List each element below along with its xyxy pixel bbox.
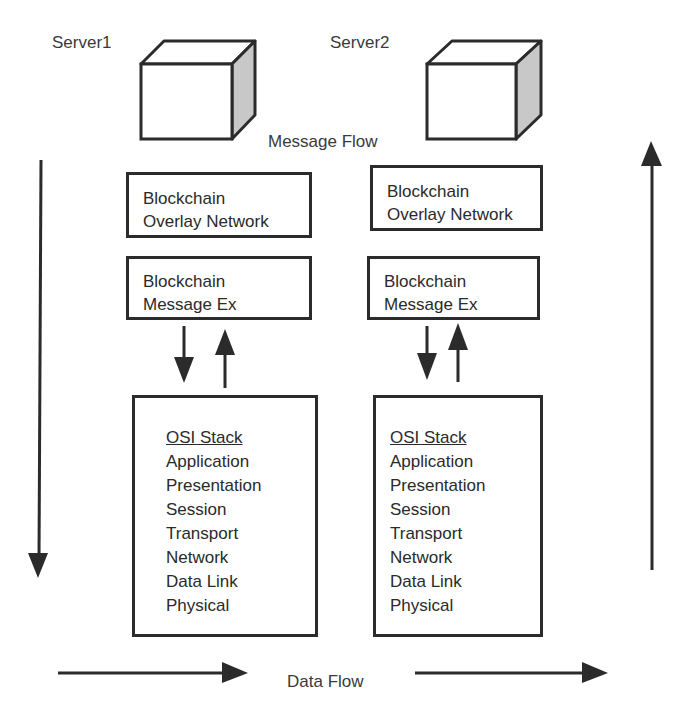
message-flow-label: Message Flow <box>268 132 378 152</box>
data-flow-label: Data Flow <box>287 672 364 692</box>
stack2-osi-layer: Presentation <box>390 474 485 498</box>
stack1-osi-layer: Data Link <box>166 570 238 594</box>
stack2-osi-stack-box: OSI Stack Application Presentation Sessi… <box>373 395 543 637</box>
stack2-message-ex-box: Blockchain Message Ex <box>367 256 540 320</box>
stack1-up-arrow-icon <box>215 329 235 388</box>
stack2-osi-layer: Data Link <box>390 570 462 594</box>
stack2-osi-layer: Physical <box>390 594 453 618</box>
stack1-message-ex-box: Blockchain Message Ex <box>126 256 312 320</box>
stack1-overlay-line2: Overlay Network <box>143 210 269 233</box>
stack2-message-line1: Blockchain <box>384 270 466 293</box>
stack2-osi-layer: Network <box>390 546 452 570</box>
stack1-message-line1: Blockchain <box>143 270 225 293</box>
stack2-up-arrow-icon <box>448 323 468 382</box>
stack1-osi-layer: Physical <box>166 594 229 618</box>
stack1-osi-stack-box: OSI Stack Application Presentation Sessi… <box>132 395 318 637</box>
server2-label: Server2 <box>330 33 390 53</box>
stack2-overlay-line2: Overlay Network <box>387 203 513 226</box>
stack2-osi-layer: Transport <box>390 522 462 546</box>
stack1-overlay-line1: Blockchain <box>143 187 225 210</box>
stack1-down-arrow-icon <box>174 326 194 383</box>
stack1-message-line2: Message Ex <box>143 293 237 316</box>
left-downward-flow-arrow-icon <box>28 160 48 578</box>
stack1-osi-layer: Transport <box>166 522 238 546</box>
server2-cube-icon <box>427 41 541 139</box>
stack2-overlay-network-box: Blockchain Overlay Network <box>370 165 543 231</box>
stack1-osi-layer: Application <box>166 450 249 474</box>
stack2-overlay-line1: Blockchain <box>387 180 469 203</box>
stack2-message-line2: Message Ex <box>384 293 478 316</box>
stack1-osi-layer: Network <box>166 546 228 570</box>
stack1-osi-layer: Presentation <box>166 474 261 498</box>
stack1-osi-layer: Session <box>166 498 226 522</box>
data-flow-left-arrow-icon <box>58 662 248 683</box>
stack2-osi-layer: Session <box>390 498 450 522</box>
diagram-graphics <box>0 0 691 725</box>
stack2-down-arrow-icon <box>417 326 437 380</box>
data-flow-right-arrow-icon <box>415 662 608 683</box>
server1-label: Server1 <box>52 33 112 53</box>
stack1-osi-title: OSI Stack <box>166 426 243 450</box>
stack2-osi-layer: Application <box>390 450 473 474</box>
server1-cube-icon <box>141 41 255 139</box>
right-upward-flow-arrow-icon <box>641 141 662 570</box>
stack2-osi-title: OSI Stack <box>390 426 467 450</box>
stack1-overlay-network-box: Blockchain Overlay Network <box>126 172 312 238</box>
